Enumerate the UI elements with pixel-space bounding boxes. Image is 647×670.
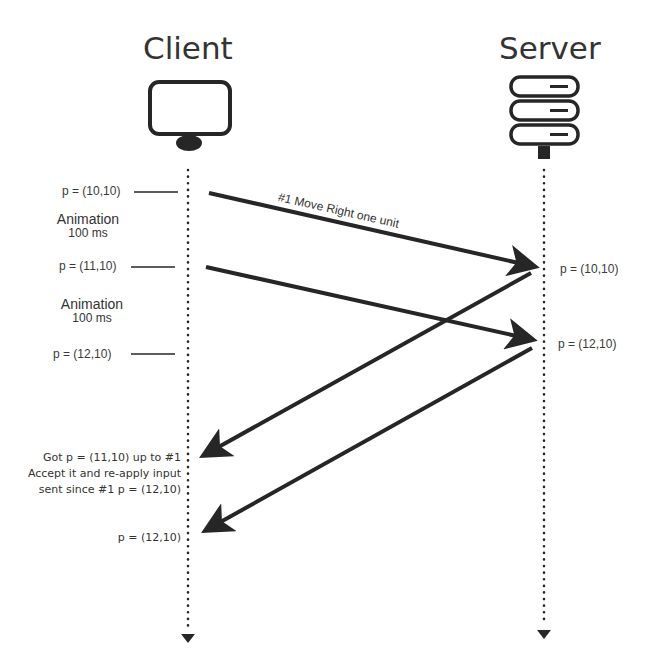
reconciliation-note: Got p = (11,10) up to #1 Accept it and r…	[28, 450, 181, 498]
client-state-label: p = (12,10)	[53, 347, 111, 361]
client-final-state: p = (12,10)	[118, 530, 181, 546]
server-rack-icon	[511, 77, 578, 159]
message-arrow-1	[209, 193, 532, 266]
response-arrow-2	[208, 348, 532, 529]
client-title: Client	[143, 30, 233, 66]
server-title: Server	[499, 30, 601, 66]
sequence-diagram-canvas	[0, 0, 647, 670]
server-state-label: p = (10,10)	[560, 262, 618, 276]
reconcile-line-3: sent since #1 p = (12,10)	[28, 482, 181, 498]
animation-title: Animation	[57, 211, 119, 227]
monitor-icon	[150, 82, 230, 151]
server-lifeline-arrow	[537, 630, 551, 639]
animation-block: Animation 100 ms	[52, 297, 132, 325]
client-state-label: p = (10,10)	[62, 184, 120, 198]
animation-duration: 100 ms	[52, 311, 132, 325]
reconcile-line-2: Accept it and re-apply input	[28, 466, 181, 482]
reconcile-line-1: Got p = (11,10) up to #1	[28, 450, 181, 466]
animation-title: Animation	[61, 296, 123, 312]
animation-duration: 100 ms	[48, 226, 128, 240]
animation-block: Animation 100 ms	[48, 212, 128, 240]
client-state-label: p = (11,10)	[59, 259, 116, 273]
server-state-label: p = (12,10)	[558, 337, 616, 351]
response-arrow-1	[206, 273, 531, 454]
message-arrow-2	[206, 267, 530, 339]
client-lifeline-arrow	[181, 634, 195, 643]
